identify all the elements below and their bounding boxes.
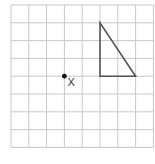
grid-diagram: X [0,0,155,164]
center-point-x [62,74,67,79]
point-label: X [67,76,75,88]
